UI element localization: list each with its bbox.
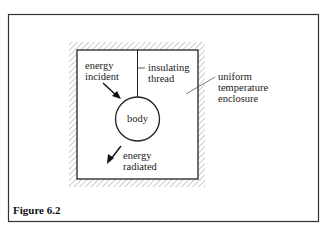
figure-caption: Figure 6.2 <box>13 204 60 216</box>
label-body: body <box>127 113 148 124</box>
diagram-canvas <box>0 0 334 235</box>
label-energy-radiated: energy radiated <box>123 150 157 172</box>
label-uniform-enclosure: uniform temperature enclosure <box>218 71 268 104</box>
label-energy-incident: energy incident <box>85 60 119 82</box>
label-insulating-thread: insulating thread <box>148 62 189 84</box>
